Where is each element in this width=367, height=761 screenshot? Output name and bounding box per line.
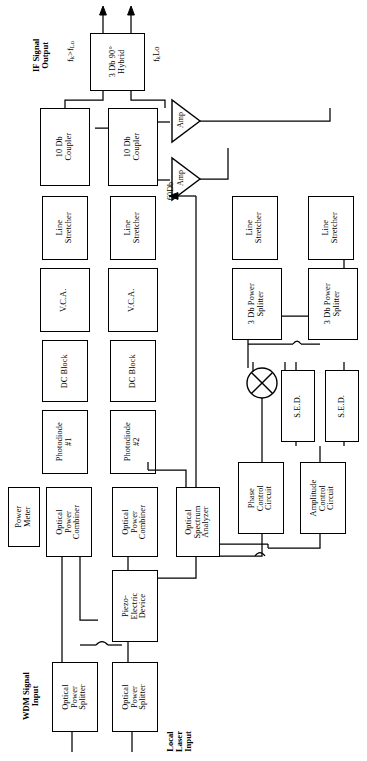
block-3db-90-hybrid[interactable]: 3 Db 90°Hybrid	[90, 33, 145, 91]
block-label: LineStretcher	[246, 212, 263, 243]
block-10db-coupler-2[interactable]: 10 DbCoupler	[108, 108, 158, 186]
block-label: OpticalPowerCombiner	[56, 505, 82, 539]
block-label: DC Block	[129, 354, 138, 388]
block-phase-control-circuit[interactable]: PhaseControlCircuit	[238, 462, 284, 534]
block-label: LineStretcher	[56, 212, 73, 243]
block-3db-power-splitter-1[interactable]: 3 Db PowerSplitter	[232, 268, 282, 340]
block-line-stretcher-3[interactable]: LineStretcher	[232, 196, 278, 260]
block-dc-block-2[interactable]: DC Block	[110, 340, 156, 402]
block-label: S.E.D.	[294, 395, 303, 418]
block-3db-power-splitter-2[interactable]: 3 Db PowerSplitter	[308, 268, 358, 340]
block-label: OpticalSpectrumAnalyzer	[185, 506, 211, 539]
label-freq-upper: fk>fLo	[66, 41, 76, 62]
block-piezo-electric-device[interactable]: Piezo-ElectricDevice	[112, 570, 158, 642]
block-label: Piezo-ElectricDevice	[122, 593, 148, 620]
block-label: S.E.D.	[338, 395, 347, 418]
block-label: V.C.A.	[129, 288, 138, 311]
block-optical-power-combiner-1[interactable]: OpticalPowerCombiner	[46, 487, 92, 557]
block-10db-coupler-1[interactable]: 10 DbCoupler	[40, 108, 90, 186]
block-sed-1[interactable]: S.E.D.	[281, 370, 315, 442]
block-amplitude-control-circuit[interactable]: AmplitudeControlCircuit	[300, 462, 346, 534]
block-label: OpticalPowerSplitter	[122, 684, 148, 709]
block-line-stretcher-2[interactable]: LineStretcher	[110, 196, 156, 260]
block-label: LineStretcher	[322, 212, 339, 243]
block-label: AmplitudeControlCircuit	[310, 480, 336, 517]
label-amp-gain: 60Db	[166, 182, 175, 200]
block-label: 3 Db PowerSplitter	[324, 283, 341, 324]
block-label: 10 DbCoupler	[56, 133, 73, 161]
block-photodiode-1[interactable]: Photodiode#1	[42, 410, 88, 474]
block-line-stretcher-4[interactable]: LineStretcher	[308, 196, 354, 260]
block-label: 10 DbCoupler	[124, 133, 141, 161]
block-label: 3 Db 90°Hybrid	[109, 46, 126, 77]
block-label: Photodiode#2	[124, 422, 141, 461]
block-optical-power-splitter-2[interactable]: OpticalPowerSplitter	[112, 662, 158, 732]
block-label: OpticalPowerSplitter	[62, 684, 88, 709]
label-freq-lower: fkLo	[152, 46, 162, 62]
block-diagram-canvas: 3 Db 90°Hybrid 10 DbCoupler 10 DbCoupler…	[0, 0, 367, 761]
block-label: DC Block	[61, 354, 70, 388]
block-label: OpticalPowerCombiner	[122, 505, 148, 539]
block-optical-spectrum-analyzer[interactable]: OpticalSpectrumAnalyzer	[176, 487, 220, 557]
label-wdm-signal-input: WDM SignalInput	[22, 672, 40, 720]
block-optical-power-splitter-1[interactable]: OpticalPowerSplitter	[52, 662, 98, 732]
block-label: PhaseControlCircuit	[248, 485, 274, 511]
block-label: LineStretcher	[124, 212, 141, 243]
block-dc-block-1[interactable]: DC Block	[42, 340, 88, 402]
block-vca-1[interactable]: V.C.A.	[40, 268, 90, 332]
label-local-laser-input: LocalLaserInput	[166, 731, 193, 752]
block-label: V.C.A.	[61, 288, 70, 311]
block-label: PowerMeter	[15, 506, 32, 528]
block-photodiode-2[interactable]: Photodiode#2	[110, 410, 156, 474]
block-sed-2[interactable]: S.E.D.	[325, 370, 359, 442]
label-if-signal-output: IF SignalOutput	[32, 39, 50, 72]
block-label: 3 Db PowerSplitter	[248, 283, 265, 324]
label-amp-2: Amp	[176, 170, 185, 186]
block-label: Photodiode#1	[56, 422, 73, 461]
block-power-meter[interactable]: PowerMeter	[8, 487, 40, 547]
block-optical-power-combiner-2[interactable]: OpticalPowerCombiner	[112, 487, 158, 557]
block-vca-2[interactable]: V.C.A.	[108, 268, 158, 332]
label-amp-1: Amp	[176, 112, 185, 128]
block-line-stretcher-1[interactable]: LineStretcher	[42, 196, 88, 260]
